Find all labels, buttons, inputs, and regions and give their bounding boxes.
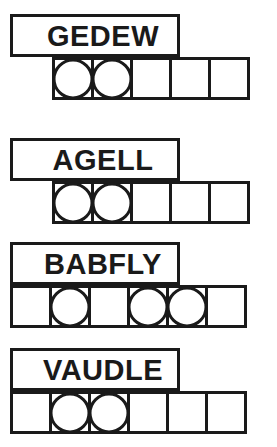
scrambled-word-box: BABFLY <box>10 242 180 285</box>
puzzle-sheet: GEDEWAGELLBABFLYVAUDLE <box>0 0 277 447</box>
answer-cell-circled[interactable] <box>52 181 94 224</box>
answer-cell-strip <box>10 391 247 434</box>
answer-cell-circled[interactable] <box>49 391 91 434</box>
scrambled-word-label: GEDEW <box>13 21 177 50</box>
answer-cell-strip <box>52 181 250 224</box>
answer-cell-circled[interactable] <box>166 285 208 328</box>
puzzle-group: VAUDLE <box>0 348 277 434</box>
answer-cell[interactable] <box>205 285 247 328</box>
scrambled-word-label: AGELL <box>13 145 177 174</box>
answer-cell[interactable] <box>88 285 130 328</box>
answer-cell-strip <box>52 57 250 100</box>
answer-cell-circled[interactable] <box>91 181 133 224</box>
scrambled-word-label: BABFLY <box>13 249 177 278</box>
puzzle-group: BABFLY <box>0 242 277 328</box>
answer-cell[interactable] <box>208 181 250 224</box>
scrambled-word-box: AGELL <box>10 138 180 181</box>
answer-cell[interactable] <box>130 181 172 224</box>
answer-cell[interactable] <box>208 57 250 100</box>
answer-cell[interactable] <box>130 57 172 100</box>
answer-cell-circled[interactable] <box>52 57 94 100</box>
answer-cell[interactable] <box>127 391 169 434</box>
scrambled-word-box: GEDEW <box>10 14 180 57</box>
answer-cell-strip <box>10 285 247 328</box>
answer-cell[interactable] <box>10 391 52 434</box>
answer-cell-circled[interactable] <box>88 391 130 434</box>
answer-cell[interactable] <box>166 391 208 434</box>
answer-cell-circled[interactable] <box>127 285 169 328</box>
answer-cell[interactable] <box>169 57 211 100</box>
answer-cell[interactable] <box>10 285 52 328</box>
puzzle-group: AGELL <box>0 138 277 224</box>
answer-cell[interactable] <box>205 391 247 434</box>
answer-cell[interactable] <box>169 181 211 224</box>
puzzle-group: GEDEW <box>0 14 277 100</box>
answer-cell-circled[interactable] <box>49 285 91 328</box>
scrambled-word-label: VAUDLE <box>13 355 177 384</box>
answer-cell-circled[interactable] <box>91 57 133 100</box>
scrambled-word-box: VAUDLE <box>10 348 180 391</box>
